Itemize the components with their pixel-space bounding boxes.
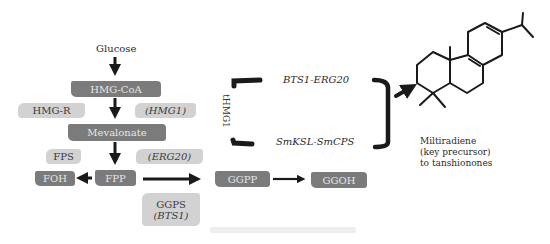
left-bracket bbox=[233, 80, 260, 144]
arrow-to-miltiradiene bbox=[396, 88, 410, 96]
miltiradiene-structure bbox=[417, 13, 533, 107]
diagram-graphics bbox=[0, 0, 550, 244]
right-bracket bbox=[374, 80, 388, 147]
